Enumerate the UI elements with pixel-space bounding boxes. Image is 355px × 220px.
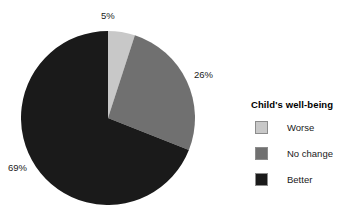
- legend-label-no-change: No change: [287, 149, 333, 159]
- legend-label-better: Better: [287, 175, 312, 185]
- legend-item-better: Better: [248, 173, 353, 187]
- pie-slices: [21, 31, 195, 205]
- pie-svg: [21, 31, 195, 205]
- legend-item-worse: Worse: [248, 121, 353, 135]
- pie-label-no-change: 26%: [194, 70, 213, 80]
- legend-label-worse: Worse: [287, 123, 314, 133]
- pie-label-worse: 5%: [101, 11, 115, 21]
- legend: Child's well-being Worse No change Bette…: [248, 100, 353, 187]
- legend-swatch-no-change: [255, 147, 268, 160]
- legend-swatch-worse: [255, 121, 268, 134]
- pie-label-better: 69%: [8, 163, 27, 173]
- legend-swatch-better: [255, 173, 268, 186]
- legend-title: Child's well-being: [251, 100, 353, 110]
- pie-chart-graphic: [21, 31, 195, 205]
- pie-chart-figure: 5% 26% 69% Child's well-being Worse No c…: [0, 0, 355, 220]
- legend-item-no-change: No change: [248, 147, 353, 161]
